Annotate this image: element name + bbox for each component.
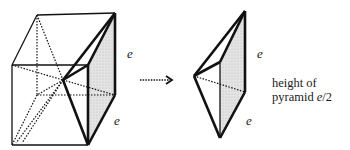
pyramid-figure: e e [194,11,263,138]
shaded-face [88,13,115,145]
pyramid-base-face [220,11,245,138]
caption: height of pyramid e/2 [272,76,332,104]
edge-label-e-top: e [127,46,133,61]
caption-suffix: /2 [322,90,332,104]
edge-label-e-bottom-right: e [246,113,252,128]
cube-figure: e e [12,13,133,145]
caption-prefix: pyramid [272,90,317,104]
arrow-right-icon [140,76,172,84]
caption-line-1: height of [272,76,332,90]
edge-label-e-top-right: e [257,46,263,61]
diagram-canvas: e e e e [0,0,350,150]
caption-line-2: pyramid e/2 [272,90,332,104]
edge-label-e-bottom: e [114,113,120,128]
